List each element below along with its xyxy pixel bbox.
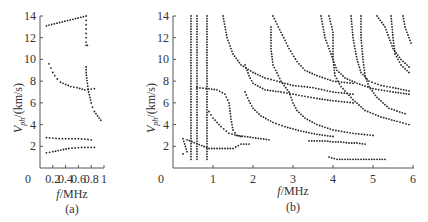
data-point (297, 130, 299, 132)
data-point (196, 117, 198, 119)
data-point (316, 140, 318, 142)
data-point (352, 31, 354, 33)
data-point (221, 92, 223, 94)
data-point (360, 34, 362, 36)
data-point (206, 125, 208, 127)
data-point (392, 91, 394, 93)
data-point (311, 73, 313, 75)
data-point (346, 131, 348, 133)
data-point (333, 158, 335, 160)
data-point (397, 92, 399, 94)
data-point (252, 137, 254, 139)
data-point (347, 78, 349, 80)
data-point (313, 133, 315, 135)
data-point (304, 95, 306, 97)
data-point (50, 67, 52, 69)
data-point (89, 97, 91, 99)
data-point (285, 87, 287, 89)
data-point (313, 97, 315, 99)
data-point (190, 156, 192, 158)
data-point (210, 114, 212, 116)
data-point (371, 81, 373, 83)
data-point (314, 122, 316, 124)
data-point (206, 67, 208, 69)
data-point (356, 59, 358, 61)
data-point (196, 99, 198, 101)
data-point (330, 23, 332, 25)
data-point (212, 117, 214, 119)
data-point (196, 104, 198, 106)
data-point (206, 44, 208, 46)
data-point (196, 125, 198, 127)
data-point (206, 122, 208, 124)
data-point (218, 124, 220, 126)
data-point (340, 73, 342, 75)
data-point (321, 77, 323, 79)
data-point (240, 64, 242, 66)
data-point (196, 75, 198, 77)
panel-b-data-points (182, 15, 412, 160)
data-point (206, 158, 208, 160)
data-point (391, 119, 393, 121)
data-point (324, 99, 326, 101)
data-point (402, 66, 404, 68)
data-point (81, 138, 83, 140)
data-point (81, 147, 83, 149)
data-point (336, 158, 338, 160)
data-point (378, 98, 380, 100)
data-point (58, 138, 60, 140)
data-point (182, 138, 184, 140)
data-point (404, 68, 406, 70)
data-point (206, 96, 208, 98)
data-point (190, 20, 192, 22)
data-point (251, 80, 253, 82)
data-point (303, 131, 305, 133)
data-point (336, 78, 338, 80)
data-point (309, 120, 311, 122)
data-point (75, 18, 77, 20)
data-point (329, 128, 331, 130)
data-point (321, 21, 323, 23)
data-point (391, 45, 393, 47)
x-tick-label: 6 (410, 172, 416, 186)
data-point (284, 126, 286, 128)
data-point (271, 59, 273, 61)
data-point (267, 78, 269, 80)
y-tick-label: 6 (163, 96, 169, 110)
data-point (320, 15, 322, 17)
data-point (259, 86, 261, 88)
data-point (190, 46, 192, 48)
data-point (270, 45, 272, 47)
data-point (190, 112, 192, 114)
data-point (190, 78, 192, 80)
data-point (360, 37, 362, 39)
data-point (206, 104, 208, 106)
data-point (289, 84, 291, 86)
data-point (88, 94, 90, 96)
data-point (196, 78, 198, 80)
data-point (231, 121, 233, 123)
data-point (190, 65, 192, 67)
data-point (399, 121, 401, 123)
data-point (275, 21, 277, 23)
data-point (277, 75, 279, 77)
data-point (270, 42, 272, 44)
data-point (309, 72, 311, 74)
data-point (344, 101, 346, 103)
data-point (196, 54, 198, 56)
data-point (332, 42, 334, 44)
data-point (356, 82, 358, 84)
data-point (371, 158, 373, 160)
data-point (402, 122, 404, 124)
data-point (287, 45, 289, 47)
data-point (222, 15, 224, 17)
data-point (221, 148, 223, 150)
data-point (304, 86, 306, 88)
data-point (203, 146, 205, 148)
data-point (352, 99, 354, 101)
data-point (264, 77, 266, 79)
data-point (190, 106, 192, 108)
data-point (279, 78, 281, 80)
data-point (386, 106, 388, 108)
data-point (196, 135, 198, 137)
